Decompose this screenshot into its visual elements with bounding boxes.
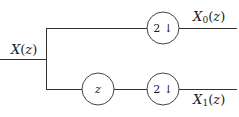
input-signal-base: X	[11, 42, 20, 57]
delay-block-bottom: z	[82, 73, 114, 105]
output-top-arg: (z)	[208, 9, 225, 24]
output-top-base: X	[193, 9, 202, 24]
input-signal-arg: (z)	[20, 42, 37, 57]
output-bottom-arg: (z)	[208, 92, 225, 107]
downsampler-block-bottom: 2 ↓	[147, 73, 179, 105]
input-signal-label: X(z)	[11, 43, 37, 56]
output-signal-label-top: X0(z)	[193, 10, 225, 25]
downsampler-block-top: 2 ↓	[147, 12, 179, 44]
output-bottom-base: X	[193, 92, 202, 107]
signal-flow-diagram: 2 ↓ z 2 ↓ X(z) X0(z) X1(z)	[0, 0, 239, 117]
downsampler-top-label: 2 ↓	[153, 22, 173, 35]
delay-label: z	[94, 83, 101, 96]
downsampler-bottom-label: 2 ↓	[153, 83, 173, 96]
output-signal-label-bottom: X1(z)	[193, 93, 225, 108]
